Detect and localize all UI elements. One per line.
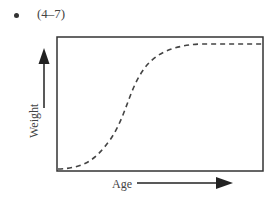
growth-chart bbox=[0, 0, 279, 198]
x-axis-arrow-icon bbox=[216, 177, 233, 189]
growth-curve bbox=[58, 44, 262, 169]
plot-frame bbox=[57, 37, 263, 171]
y-axis-arrow-icon bbox=[39, 48, 50, 64]
x-axis-label: Age bbox=[112, 177, 132, 192]
y-axis-label: Weight bbox=[27, 104, 42, 138]
